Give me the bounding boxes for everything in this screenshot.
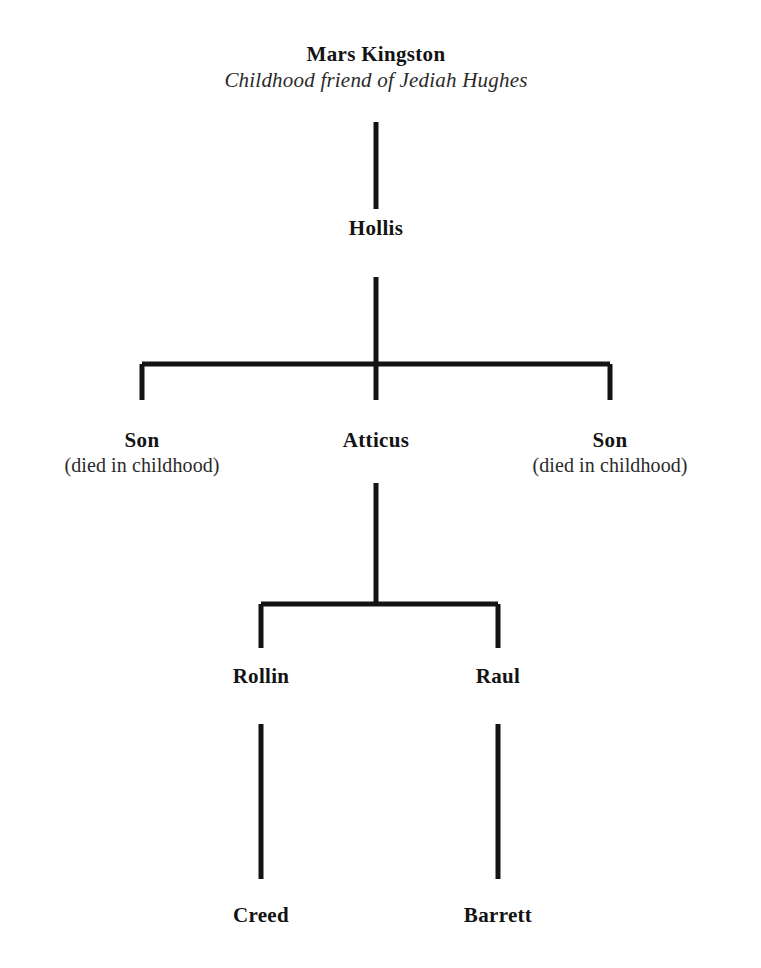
node-note-son-left: (died in childhood) [64,454,219,478]
tree-node-rollin: Rollin [233,664,290,689]
node-name-rollin: Rollin [233,664,290,689]
connector-layer [0,0,761,968]
tree-node-creed: Creed [233,903,289,928]
tree-node-son-right: Son(died in childhood) [532,428,687,477]
node-name-creed: Creed [233,903,289,928]
node-name-son-left: Son [64,428,219,453]
family-tree-diagram: Mars KingstonChildhood friend of Jediah … [0,0,761,968]
node-note-son-right: (died in childhood) [532,454,687,478]
node-name-mars-kingston: Mars Kingston [224,42,527,67]
node-name-barrett: Barrett [464,903,532,928]
node-name-son-right: Son [532,428,687,453]
tree-node-mars-kingston: Mars KingstonChildhood friend of Jediah … [224,42,527,93]
tree-node-hollis: Hollis [349,216,403,241]
tree-node-barrett: Barrett [464,903,532,928]
tree-node-atticus: Atticus [343,428,409,453]
tree-node-son-left: Son(died in childhood) [64,428,219,477]
tree-node-raul: Raul [476,664,520,689]
node-name-raul: Raul [476,664,520,689]
node-name-hollis: Hollis [349,216,403,241]
node-name-atticus: Atticus [343,428,409,453]
node-note-mars-kingston: Childhood friend of Jediah Hughes [224,68,527,93]
